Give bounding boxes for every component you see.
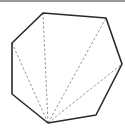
diagonal-to-right-vertex <box>48 64 122 123</box>
diagonal-to-top-left-vertex <box>43 13 48 123</box>
diagonal-to-left-vertex <box>12 43 48 123</box>
heptagon-outline <box>12 13 122 123</box>
diagonal-to-top-right-vertex <box>48 18 106 123</box>
heptagon-diagram <box>0 0 125 132</box>
